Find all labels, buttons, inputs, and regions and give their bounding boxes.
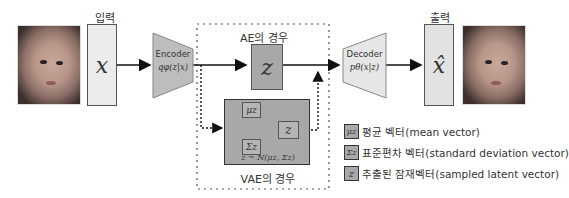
decoder-title: Decoder	[343, 49, 386, 59]
vae-sigma-symbol: Σz	[246, 142, 257, 152]
legend-item-latent: z 추출된 잠재벡터(sampled latent vector)	[344, 165, 569, 181]
mean-vector-icon: μz	[344, 124, 359, 139]
latent-vector-icon: z	[344, 166, 359, 181]
decoder-block: Decoder pθ(x|z)	[343, 49, 386, 72]
stddev-vector-icon: Σz	[344, 145, 359, 160]
legend-mean-text: 평균 벡터(mean vector)	[362, 124, 480, 139]
legend-item-mean: μz 평균 벡터(mean vector)	[344, 123, 569, 139]
output-face-image	[462, 25, 526, 105]
decoder-formula: pθ(x|z)	[343, 62, 386, 72]
encoder-title: Encoder	[153, 49, 193, 59]
input-symbol: x	[96, 53, 108, 78]
encoder-block: Encoder qφ(z|x)	[153, 49, 193, 72]
vae-z-box: z	[278, 121, 299, 139]
encoder-formula: qφ(z|x)	[153, 62, 193, 72]
legend-stddev-text: 표준편차 벡터(standard deviation vector)	[362, 145, 569, 160]
legend: μz 평균 벡터(mean vector) Σz 표준편차 벡터(standar…	[344, 123, 569, 181]
vae-case-label: VAE의 경우	[238, 170, 298, 186]
output-symbol: x̂	[433, 53, 445, 78]
input-face-image	[17, 25, 81, 105]
vae-sampling-formula: z ~ N(μz, Σz)	[228, 153, 308, 162]
legend-item-stddev: Σz 표준편차 벡터(standard deviation vector)	[344, 144, 569, 160]
vae-mu-box: μz	[242, 102, 261, 118]
ae-latent-symbol: z	[261, 55, 273, 80]
input-label: 입력	[90, 9, 120, 25]
output-box: x̂	[424, 24, 454, 106]
vae-mu-symbol: μz	[246, 105, 257, 115]
input-box: x	[87, 24, 117, 106]
output-label: 출력	[425, 9, 455, 25]
vae-z-symbol: z	[285, 123, 291, 137]
ae-case-label: AE의 경우	[238, 29, 290, 45]
ae-latent-box: z	[251, 44, 283, 90]
legend-latent-text: 추출된 잠재벡터(sampled latent vector)	[362, 166, 559, 181]
